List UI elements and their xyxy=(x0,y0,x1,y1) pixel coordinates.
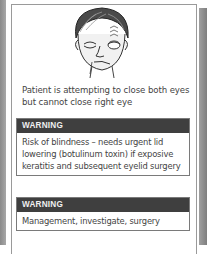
right-page-edge xyxy=(199,8,207,245)
warning-body: Risk of blindness – needs urgent lid low… xyxy=(17,133,189,175)
left-page-edge xyxy=(0,0,6,245)
management-header: WARNING xyxy=(17,198,189,212)
warning-header: WARNING xyxy=(17,119,189,133)
management-box: WARNING Management, investigate, surgery xyxy=(16,197,190,231)
warning-box: WARNING Risk of blindness – needs urgent… xyxy=(16,118,190,176)
figure-caption: Patient is attempting to close both eyes… xyxy=(22,84,192,108)
face-illustration-icon xyxy=(62,4,142,78)
management-body: Management, investigate, surgery xyxy=(17,212,189,230)
